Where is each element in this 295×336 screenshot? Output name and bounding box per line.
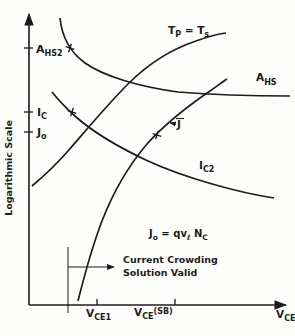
- ahs-label: AHS: [256, 71, 277, 87]
- annotation-line1: Current Crowding: [123, 254, 218, 265]
- y-tick-label-ic: IC: [37, 106, 47, 121]
- schematic-log-plot-figure: Logarithmic Scale AHS2 IC Jo TP = Ts AHS…: [0, 0, 295, 336]
- y-tick-label-ahs2: AHS2: [36, 43, 63, 58]
- y-axis-title: Logarithmic Scale: [3, 120, 14, 216]
- ic-ic2-curve: [52, 92, 274, 198]
- x-axis-title: VCE: [276, 308, 295, 323]
- y-tick-label-jo: Jo: [36, 126, 47, 141]
- plot-canvas: Logarithmic Scale AHS2 IC Jo TP = Ts AHS…: [0, 0, 295, 336]
- equation-label: Jo = qvℓ NC: [148, 228, 208, 242]
- x-tick-label-vcesb: VCE(SB): [134, 306, 173, 321]
- ic2-label: IC2: [199, 159, 214, 174]
- tp-ts-label: TP = Ts: [168, 24, 209, 39]
- annotation-line2: Solution Valid: [123, 267, 197, 278]
- jbar-label: J: [176, 118, 181, 130]
- jbar-leader-arrow: [170, 123, 176, 124]
- plus-marker-jbar: [151, 129, 162, 140]
- x-tick-label-vce1: VCE1: [86, 307, 111, 322]
